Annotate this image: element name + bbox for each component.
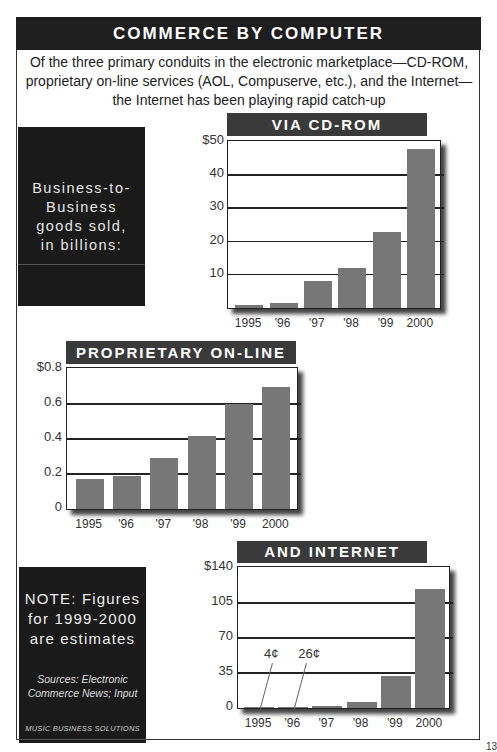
units-line: Business-to- — [18, 179, 145, 198]
note-line: for 1999-2000 — [19, 609, 146, 629]
y-tick-label: 0 — [12, 499, 62, 514]
plot-area — [227, 140, 441, 309]
y-tick-label: $50 — [174, 132, 224, 147]
chart-title: AND INTERNET — [237, 541, 427, 563]
bar — [347, 702, 377, 708]
bar — [235, 305, 263, 308]
sources-line: Sources: Electronic — [19, 672, 146, 686]
x-tick-label: 1995 — [69, 517, 109, 531]
y-tick-label: 35 — [183, 663, 233, 678]
subtitle: Of the three primary conduits in the ele… — [24, 53, 474, 110]
units-line: in billions: — [18, 236, 145, 255]
note-text: NOTE: Figures for 1999-2000 are estimate… — [19, 589, 146, 649]
note-line: NOTE: Figures — [19, 589, 146, 609]
x-tick-label: 2000 — [255, 517, 295, 531]
subtitle-line: Of the three primary conduits in the ele… — [24, 53, 474, 72]
units-line: Business — [18, 198, 145, 217]
units-line: goods sold, — [18, 217, 145, 236]
y-tick-label: 40 — [174, 165, 224, 180]
x-tick-label: '99 — [218, 517, 258, 531]
y-tick-label: 30 — [174, 198, 224, 213]
bar — [373, 232, 401, 308]
divider — [19, 739, 146, 740]
bar — [76, 479, 104, 509]
y-tick-label: $140 — [183, 558, 233, 573]
y-tick-label: 70 — [183, 628, 233, 643]
x-tick-label: '98 — [181, 517, 221, 531]
x-tick-label: 2000 — [409, 716, 449, 730]
plot-area — [66, 367, 298, 510]
y-tick-label: $0.8 — [12, 359, 62, 374]
x-tick-label: 2000 — [400, 316, 440, 330]
value-annotation: 4¢ — [264, 646, 278, 661]
y-tick-label: 0.4 — [12, 429, 62, 444]
bar — [113, 476, 141, 509]
main-title: COMMERCE BY COMPUTER — [16, 17, 481, 50]
y-tick-label: 0 — [183, 698, 233, 713]
chart-title: VIA CD-ROM — [227, 113, 427, 136]
units-label: Business-to- Business goods sold, in bil… — [18, 179, 145, 255]
note-line: are estimates — [19, 629, 146, 649]
units-label-box: Business-to- Business goods sold, in bil… — [18, 127, 145, 306]
bar — [415, 589, 445, 708]
bar — [262, 387, 290, 510]
y-tick-label: 20 — [174, 232, 224, 247]
note-box: NOTE: Figures for 1999-2000 are estimate… — [19, 567, 146, 743]
bar — [407, 149, 435, 308]
plot-area — [237, 566, 450, 709]
y-tick-label: 0.6 — [12, 394, 62, 409]
bar — [225, 404, 253, 509]
bar — [150, 458, 178, 509]
chart-title: PROPRIETARY ON-LINE — [66, 341, 296, 364]
sources-line: Commerce News; Input — [19, 686, 146, 700]
y-tick-label: 10 — [174, 265, 224, 280]
subtitle-line: the Internet has been playing rapid catc… — [24, 91, 474, 110]
bar — [381, 676, 411, 708]
bar — [312, 706, 342, 708]
brand-credit: MUSIC BUSINESS SOLUTIONS — [19, 724, 146, 733]
page-number: 13 — [486, 741, 497, 752]
bar — [270, 303, 298, 308]
x-tick-label: '96 — [106, 517, 146, 531]
bar — [304, 281, 332, 308]
y-tick-label: 0.2 — [12, 464, 62, 479]
sources-text: Sources: Electronic Commerce News; Input — [19, 672, 146, 700]
subtitle-line: proprietary on-line services (AOL, Compu… — [24, 72, 474, 91]
divider — [18, 264, 145, 265]
bar — [188, 436, 216, 510]
y-tick-label: 105 — [183, 593, 233, 608]
value-annotation: 26¢ — [298, 646, 320, 661]
x-tick-label: '97 — [143, 517, 183, 531]
bar — [338, 268, 366, 308]
